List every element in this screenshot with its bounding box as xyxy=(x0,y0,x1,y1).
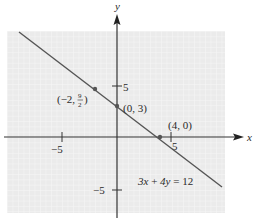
graph-figure: x −5 5 y 5 −5 (−2, 9 2 ) (0, 3) (4, 0) 3… xyxy=(0,0,257,223)
svg-text:): ) xyxy=(84,93,88,106)
y-tick-label-neg5: −5 xyxy=(93,184,105,196)
label-point-0-3: (0, 3) xyxy=(123,102,147,115)
x-tick-label-neg5: −5 xyxy=(51,143,63,155)
svg-text:9: 9 xyxy=(78,92,82,100)
y-tick-label-5: 5 xyxy=(123,81,129,93)
label-point-4-0: (4, 0) xyxy=(168,119,192,132)
svg-text:2: 2 xyxy=(78,101,82,109)
point-4-0 xyxy=(158,135,162,139)
svg-text:(−2,: (−2, xyxy=(57,93,75,106)
x-axis-label: x xyxy=(246,131,252,143)
point-neg2-9over2 xyxy=(93,87,97,91)
y-axis-label: y xyxy=(114,0,120,12)
point-0-3 xyxy=(115,104,119,108)
equation-label: 3x + 4y = 12 xyxy=(137,175,193,187)
